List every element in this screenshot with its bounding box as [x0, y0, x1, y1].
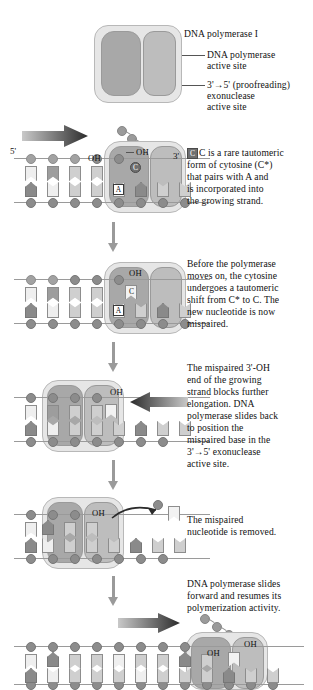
caption-line-4: is incorporated into	[187, 183, 313, 195]
base-letter-adenine-panel1: A	[113, 184, 124, 195]
caption-line-2: form of cytosine (C*)	[187, 159, 313, 171]
oh-leader-panel1	[126, 152, 134, 153]
label-oh-panel4: OH	[92, 508, 105, 518]
label-polymerase-active-site-line2: active site	[207, 60, 313, 71]
caption2-line-5: new nucleotide is now	[187, 306, 313, 318]
label-dna-polymerase-I: DNA polymerase I	[184, 28, 312, 39]
caption3-line-8: 3'→5' exonuclease	[187, 446, 313, 458]
label-exonuclease-line3: active site	[207, 101, 313, 112]
label-oh-growing-panel1: OH	[88, 153, 101, 163]
excision-arrow	[110, 504, 162, 526]
label-oh-growing-panel5: OH	[207, 648, 220, 658]
caption-line-1: C is a rare tautomeric	[199, 147, 313, 159]
polymerase-active-site-lobe	[101, 31, 141, 96]
step-arrow-3to4	[112, 460, 115, 482]
exonuclease-site-panel2	[150, 267, 182, 328]
step-arrow-1to2	[112, 222, 115, 244]
label-oh-panel2: OH	[129, 268, 142, 278]
caption2-line-2: moves on, the cytosine	[187, 270, 313, 282]
caption2-line-3: undergoes a tautomeric	[187, 282, 313, 294]
caption-boxed-C-panel1: C	[187, 148, 198, 159]
caption3-line-4: elongation. DNA	[187, 398, 313, 410]
upper-backbone	[14, 158, 210, 159]
label-exonuclease-line1: 3'→5' (proofreading)	[207, 79, 313, 90]
leader-line-polymerase	[182, 55, 205, 56]
label-oh-incoming-panel5: OH	[244, 639, 257, 649]
caption-line-5: the growing strand.	[187, 195, 313, 207]
caption3-line-6: to position the	[187, 422, 313, 434]
step-arrow-2to3	[112, 342, 115, 364]
caption2-line-4: shift from C* to C. The	[187, 294, 313, 306]
leader-line-exonuclease	[182, 85, 205, 86]
label-three-prime-panel1: 3'	[173, 151, 179, 161]
figure-dna-polymerase-proofreading: DNA polymerase I DNA polymerase active s…	[0, 0, 313, 690]
label-five-prime-panel1: 5'	[10, 146, 16, 156]
label-exonuclease-line2: exonuclease	[207, 90, 313, 101]
caption-line-3: that pairs with A and	[187, 171, 313, 183]
caption2-line-1: Before the polymerase	[187, 258, 313, 270]
label-oh-incoming-panel1: OH	[136, 147, 149, 157]
label-polymerase-active-site-line1: DNA polymerase	[207, 49, 313, 60]
removed-nucleotide-base	[168, 506, 180, 521]
step-arrow-4to5	[112, 576, 115, 598]
exonuclease-active-site-lobe	[143, 31, 176, 96]
caption5-line-1: DNA polymerase slides	[187, 578, 313, 590]
caption3-line-9: active site.	[187, 458, 313, 470]
caption4-line-1: The mispaired	[187, 514, 313, 526]
base-letter-adenine-panel2: A	[113, 305, 124, 316]
caption3-line-2: end of the growing	[187, 374, 313, 386]
label-oh-panel3: OH	[110, 387, 123, 397]
caption5-line-2: forward and resumes its	[187, 590, 313, 602]
motion-arrow-right-5	[118, 613, 180, 633]
caption3-line-3: strand blocks further	[187, 386, 313, 398]
caption5-line-3: polymerization activity.	[187, 602, 313, 614]
caption3-line-1: The mispaired 3'-OH	[187, 362, 313, 374]
base-letter-cytosine-panel2: C	[127, 287, 136, 296]
motion-arrow-left-3	[130, 392, 188, 412]
caption2-line-6: mispaired.	[187, 318, 313, 330]
motion-arrow-right-1	[22, 125, 90, 147]
base-letter-cytosine-tautomer-panel1: C	[130, 162, 141, 173]
caption3-line-7: mispaired base in the	[187, 434, 313, 446]
caption4-line-2: nucleotide is removed.	[187, 526, 313, 538]
caption3-line-5: polymerase slides back	[187, 410, 313, 422]
